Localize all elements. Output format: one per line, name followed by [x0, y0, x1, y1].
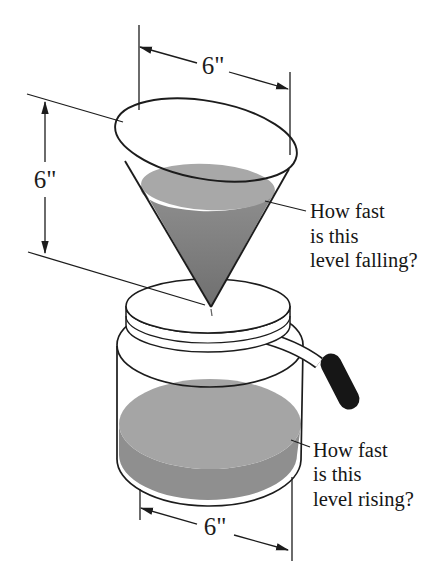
rising-annotation-line-2: is this	[313, 463, 361, 485]
rising-annotation-line-3: level rising?	[313, 488, 414, 511]
related-rates-diagram: 6" 6" 6" How fast is this level falling?…	[0, 0, 441, 582]
cone-height-label: 6"	[34, 166, 57, 193]
cone-height-extension-bottom	[28, 252, 205, 305]
pot-diameter-arrow-right	[234, 535, 288, 550]
cone-diameter-arrow-right	[229, 72, 288, 89]
figure-canvas: 6" 6" 6" How fast is this level falling?…	[0, 0, 441, 582]
pot-diameter-arrow-left	[141, 508, 197, 524]
pot-diameter-label: 6"	[204, 513, 227, 540]
cone-diameter-label: 6"	[202, 52, 225, 79]
cone-diameter-arrow-left	[140, 47, 197, 63]
falling-annotation-line-1: How fast	[310, 200, 385, 222]
falling-annotation-line-3: level falling?	[310, 249, 418, 272]
handle-grip	[331, 364, 349, 399]
rising-annotation-line-1: How fast	[313, 439, 388, 461]
cone-height-extension-top	[27, 94, 123, 122]
falling-annotation-line-2: is this	[310, 225, 358, 247]
falling-leader-line	[265, 201, 306, 211]
pot-liquid-surface	[119, 379, 301, 469]
